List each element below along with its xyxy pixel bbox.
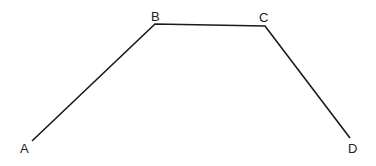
point-label-a: A (20, 141, 29, 156)
polyline-diagram: A B C D (0, 0, 376, 166)
path-a-b-c-d (32, 24, 350, 141)
point-label-b: B (151, 9, 160, 24)
point-label-d: D (348, 141, 357, 156)
point-label-c: C (259, 10, 268, 25)
